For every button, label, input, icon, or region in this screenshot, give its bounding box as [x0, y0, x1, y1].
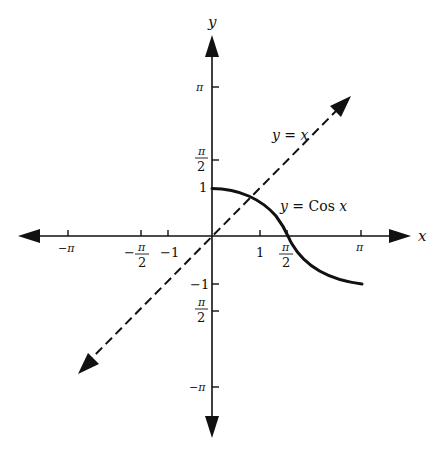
xtick-pi: π	[355, 241, 364, 254]
annotation-cos-func: Cos	[309, 198, 335, 214]
ytick-neg-half-pi-den: 2	[197, 310, 205, 325]
xtick-1: 1	[256, 245, 264, 260]
annotation-y-equals-cos-x: y = Cos x	[279, 198, 347, 214]
y-axis-label: y	[207, 13, 217, 31]
xtick-neg-half-pi-num: π	[137, 241, 146, 254]
y-ticks	[212, 87, 219, 387]
x-axis-label: x	[418, 227, 427, 245]
xtick-neg-half-pi-den: 2	[138, 255, 146, 270]
x-axis	[18, 229, 411, 243]
ytick-neg-pi: −π	[189, 381, 206, 394]
xtick-neg-half-pi-sign: −	[124, 245, 135, 260]
y-axis-up-arrow-icon	[205, 35, 219, 57]
ytick-half-pi-den: 2	[197, 159, 205, 174]
ytick-neg-1: −1	[190, 277, 209, 292]
series-y-equals-x	[78, 96, 351, 374]
ytick-pi: π	[195, 81, 204, 94]
x-axis-right-arrow-icon	[389, 229, 411, 243]
xtick-neg-pi: −π	[58, 242, 75, 255]
xtick-half-pi-den: 2	[282, 255, 290, 270]
ytick-neg-half-pi-num: π	[197, 296, 206, 309]
x-axis-left-arrow-icon	[18, 229, 40, 243]
ytick-half-pi-num: π	[197, 145, 206, 158]
y-axis-down-arrow-icon	[205, 416, 219, 438]
line-lower-arrow-icon	[78, 353, 99, 374]
xtick-neg-1: −1	[160, 245, 179, 260]
cos-x-chart: y x −π − π 2 −1 1 π 2 π π π 2 1 −1 π 2 −…	[0, 0, 440, 454]
xtick-half-pi-num: π	[281, 241, 290, 254]
annotation-cos-prefix: y =	[279, 198, 309, 214]
annotation-cos-var: x	[335, 198, 347, 214]
annotation-y-equals-x: y = x	[271, 127, 309, 143]
ytick-1: 1	[199, 180, 207, 195]
